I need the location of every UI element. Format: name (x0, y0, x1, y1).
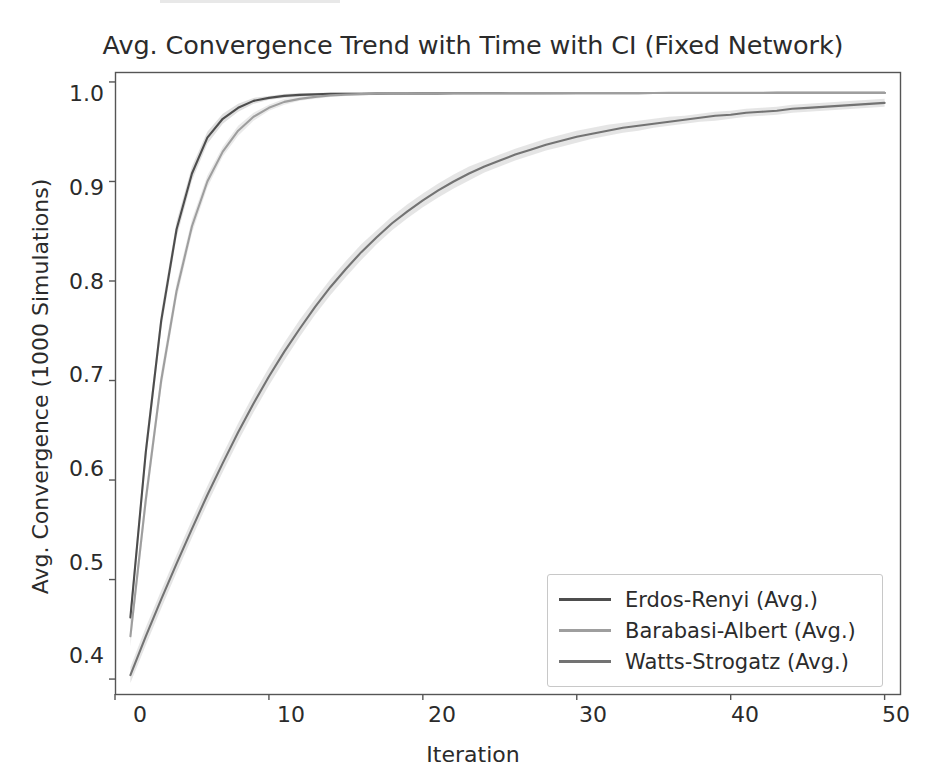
figure-canvas: Avg. Convergence Trend with Time with CI… (0, 0, 946, 780)
xtick-label-50: 50 (866, 702, 926, 727)
legend-item-watts-strogatz[interactable]: Watts-Strogatz (Avg.) (559, 646, 871, 677)
x-axis-label: Iteration (0, 742, 946, 767)
xtick-label-30: 30 (563, 702, 623, 727)
legend-swatch-barabasi-albert (559, 629, 611, 632)
legend-swatch-erdos-renyi (559, 598, 611, 601)
ci-band-1 (130, 92, 884, 646)
legend-label-barabasi-albert: Barabasi-Albert (Avg.) (625, 619, 856, 643)
legend: Erdos-Renyi (Avg.) Barabasi-Albert (Avg.… (547, 574, 883, 687)
xtick-label-10: 10 (261, 702, 321, 727)
legend-item-barabasi-albert[interactable]: Barabasi-Albert (Avg.) (559, 615, 871, 646)
legend-label-erdos-renyi: Erdos-Renyi (Avg.) (625, 588, 818, 612)
legend-swatch-watts-strogatz (559, 660, 611, 663)
legend-label-watts-strogatz: Watts-Strogatz (Avg.) (625, 650, 849, 674)
y-axis-label: Avg. Convergence (1000 Simulations) (28, 77, 53, 697)
ci-band-0 (130, 92, 884, 627)
xtick-label-40: 40 (715, 702, 775, 727)
series-line-1 (130, 93, 884, 636)
xtick-label-20: 20 (412, 702, 472, 727)
series-line-0 (130, 93, 884, 617)
legend-item-erdos-renyi[interactable]: Erdos-Renyi (Avg.) (559, 584, 871, 615)
xtick-label-0: 0 (110, 702, 170, 727)
